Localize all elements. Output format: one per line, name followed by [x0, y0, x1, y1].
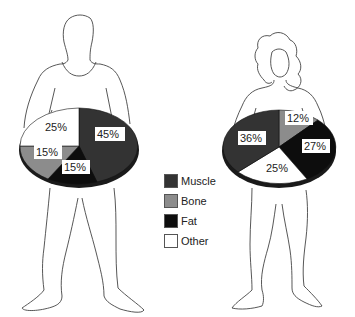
male-pie: 45% 25% 15% 15% [19, 108, 139, 188]
female-pie: 12% 27% 36% 25% [222, 110, 336, 188]
female-label-other: 25% [266, 162, 288, 174]
female-label-muscle: 36% [240, 132, 262, 144]
muscle-swatch-icon [164, 174, 178, 188]
female-label-fat: 27% [304, 140, 326, 152]
male-label-muscle: 45% [97, 128, 119, 140]
legend-item-other: Other [164, 232, 216, 250]
male-label-other: 25% [45, 121, 67, 133]
other-swatch-icon [164, 234, 178, 248]
body-composition-figure: 45% 25% 15% 15% 12% [0, 0, 355, 317]
female-label-bone: 12% [287, 112, 309, 124]
fat-swatch-icon [164, 214, 178, 228]
legend-item-fat: Fat [164, 212, 216, 230]
legend-item-bone: Bone [164, 192, 216, 210]
male-label-fat: 15% [64, 161, 86, 173]
legend-item-muscle: Muscle [164, 172, 216, 190]
male-label-bone: 15% [36, 146, 58, 158]
bone-swatch-icon [164, 194, 178, 208]
legend: Muscle Bone Fat Other [164, 172, 216, 252]
